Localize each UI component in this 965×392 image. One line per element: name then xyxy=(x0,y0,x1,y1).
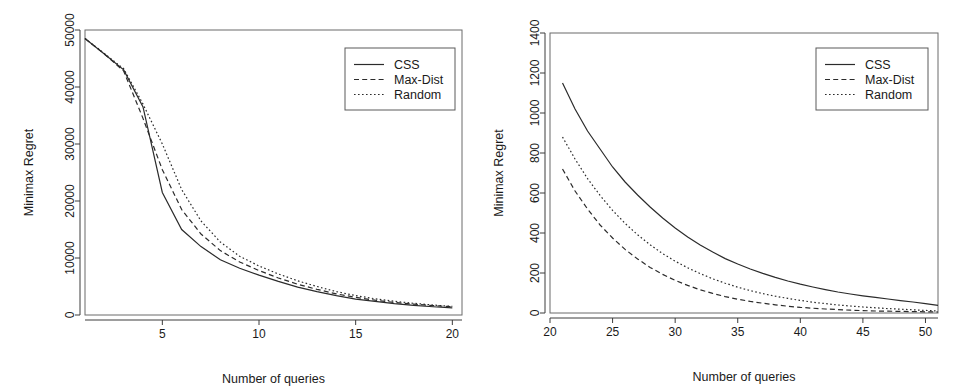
legend: CSSMax-DistRandom xyxy=(816,48,928,110)
series-line-max-dist xyxy=(563,169,938,312)
y-axis-title: Minimax Regret xyxy=(492,129,506,217)
legend-label-max-dist: Max-Dist xyxy=(394,73,444,87)
y-axis-tick-label: 20000 xyxy=(63,184,77,218)
x-axis-tick-label: 25 xyxy=(606,325,620,339)
y-axis-title: Minimax Regret xyxy=(22,128,36,216)
x-axis-tick-label: 50 xyxy=(919,325,933,339)
y-axis-tick-label: 800 xyxy=(528,143,542,163)
y-axis-tick-label: 40000 xyxy=(63,70,77,104)
y-axis-tick-label: 50000 xyxy=(63,13,77,47)
legend-label-css: CSS xyxy=(394,58,420,72)
x-axis-tick-label: 20 xyxy=(446,327,460,341)
x-axis-tick-label: 15 xyxy=(349,327,363,341)
y-axis-tick-label: 10000 xyxy=(63,241,77,275)
y-axis-tick-label: 1400 xyxy=(528,19,542,46)
x-axis-tick-label: 40 xyxy=(794,325,808,339)
y-axis-tick-label: 200 xyxy=(528,263,542,283)
left-panel: 010000200003000040000500005101520Number … xyxy=(0,0,483,392)
left-panel-plot: 010000200003000040000500005101520Number … xyxy=(0,0,483,392)
y-axis-tick-label: 0 xyxy=(63,311,77,318)
legend: CSSMax-DistRandom xyxy=(345,48,455,110)
x-axis-tick-label: 5 xyxy=(159,327,166,341)
y-axis-tick-label: 1200 xyxy=(528,59,542,86)
y-axis-tick-label: 400 xyxy=(528,223,542,243)
x-axis-tick-label: 45 xyxy=(856,325,870,339)
x-axis-tick-label: 30 xyxy=(668,325,682,339)
y-axis-tick-label: 600 xyxy=(528,183,542,203)
x-axis-title: Number of queries xyxy=(693,370,796,384)
figure-two-panel-line-charts: 010000200003000040000500005101520Number … xyxy=(0,0,965,392)
y-axis-tick-label: 1000 xyxy=(528,99,542,126)
x-axis-tick-label: 10 xyxy=(252,327,266,341)
right-panel: 020040060080010001200140020253035404550N… xyxy=(483,0,965,392)
right-panel-plot: 020040060080010001200140020253035404550N… xyxy=(483,0,965,392)
x-axis-title: Number of queries xyxy=(222,372,325,386)
series-line-random xyxy=(563,137,938,311)
x-axis-tick-label: 20 xyxy=(543,325,557,339)
legend-label-random: Random xyxy=(865,88,912,102)
y-axis-tick-label: 30000 xyxy=(63,127,77,161)
y-axis-tick-label: 0 xyxy=(528,309,542,316)
x-axis-tick-label: 35 xyxy=(731,325,745,339)
series-line-css xyxy=(563,83,938,305)
legend-label-css: CSS xyxy=(865,58,891,72)
legend-label-max-dist: Max-Dist xyxy=(865,73,915,87)
legend-label-random: Random xyxy=(394,88,441,102)
